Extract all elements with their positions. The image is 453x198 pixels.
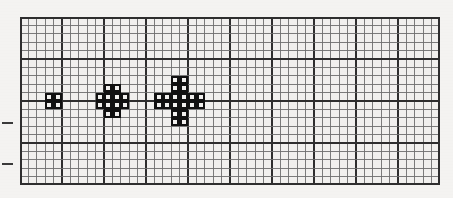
graph-paper-figure bbox=[0, 0, 453, 198]
grid-canvas bbox=[20, 17, 440, 185]
margin-tick-upper bbox=[2, 122, 13, 124]
graph-paper-grid bbox=[20, 17, 440, 185]
margin-tick-lower bbox=[2, 163, 13, 165]
